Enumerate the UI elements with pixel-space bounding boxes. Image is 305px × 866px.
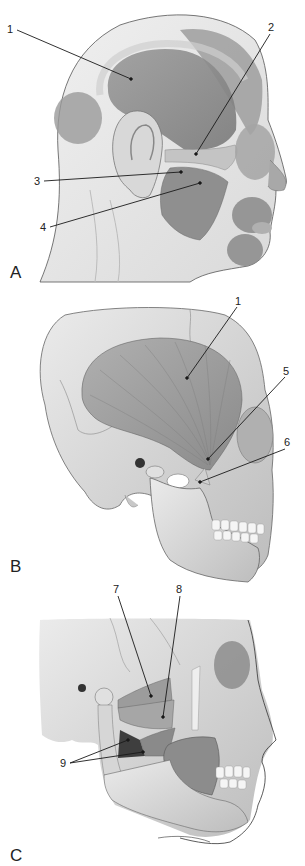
callout-c-9: 9 [60, 758, 66, 769]
panel-c-skull-deep [39, 618, 276, 844]
panel-label-c: C [10, 847, 22, 864]
panel-a-head [40, 15, 286, 282]
panel-label-b: B [10, 558, 21, 575]
anatomy-illustration [0, 0, 305, 866]
callout-c-7: 7 [113, 584, 119, 595]
callout-b-5: 5 [283, 366, 289, 377]
panel-b-skull [40, 308, 273, 583]
callout-a-4: 4 [40, 222, 46, 233]
callout-b-6: 6 [284, 437, 290, 448]
callout-a-2: 2 [268, 22, 274, 33]
callout-a-3: 3 [34, 176, 40, 187]
callout-a-1: 1 [7, 24, 13, 35]
panel-label-a: A [10, 264, 21, 281]
callout-c-8: 8 [176, 584, 182, 595]
callout-b-1: 1 [235, 296, 241, 307]
